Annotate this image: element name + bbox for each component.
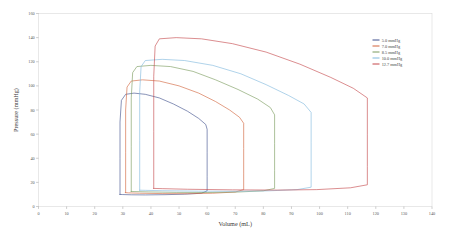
x-tick-label: 140 xyxy=(429,211,435,216)
y-tick-label: 140 xyxy=(28,35,34,40)
x-axis-title: Volume (mL) xyxy=(219,220,252,228)
x-tick-label: 50 xyxy=(177,211,181,216)
x-tick-label: 60 xyxy=(205,211,209,216)
y-tick-label: 80 xyxy=(30,108,34,113)
pv-loop-1 xyxy=(126,80,244,194)
y-tick-label: 60 xyxy=(30,132,34,137)
x-tick-label: 80 xyxy=(261,211,265,216)
pv-loop-3 xyxy=(140,59,311,191)
pv-loop-0 xyxy=(120,93,207,195)
x-tick-label: 90 xyxy=(289,211,293,216)
legend-label-3: 10.0 mmHg xyxy=(382,56,403,61)
y-tick-label: 100 xyxy=(28,83,34,88)
x-tick-label: 10 xyxy=(64,211,68,216)
plot-frame xyxy=(39,14,433,207)
y-tick-label: 40 xyxy=(30,156,34,161)
y-tick-label: 160 xyxy=(28,11,34,16)
y-tick-label: 20 xyxy=(30,180,34,185)
legend-label-1: 7.0 mmHg xyxy=(382,44,401,49)
legend-label-4: 12.7 mmHg xyxy=(382,62,403,67)
pressure-volume-loop-chart: 0102030405060708090100110120130140020406… xyxy=(0,0,474,240)
y-axis-title: Pressure (mmHg) xyxy=(12,88,20,132)
y-tick-label: 0 xyxy=(33,204,35,209)
x-tick-label: 100 xyxy=(316,211,322,216)
pv-loop-2 xyxy=(131,65,274,192)
chart-canvas: 0102030405060708090100110120130140020406… xyxy=(0,0,474,240)
x-tick-label: 0 xyxy=(37,211,39,216)
x-tick-label: 40 xyxy=(149,211,153,216)
x-tick-label: 70 xyxy=(233,211,237,216)
x-tick-label: 20 xyxy=(93,211,97,216)
x-tick-label: 120 xyxy=(373,211,379,216)
x-tick-label: 30 xyxy=(121,211,125,216)
y-tick-label: 120 xyxy=(28,59,34,64)
x-tick-label: 110 xyxy=(345,211,351,216)
legend-label-2: 8.5 mmHg xyxy=(382,50,401,55)
legend-label-0: 5.0 mmHg xyxy=(382,38,401,43)
x-tick-label: 130 xyxy=(401,211,407,216)
